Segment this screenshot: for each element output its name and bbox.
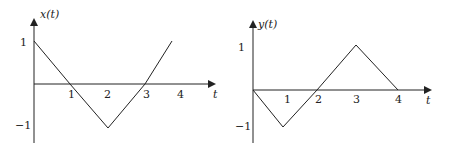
x-tick-3: 3	[143, 88, 150, 101]
x-tick-2: 2	[315, 93, 322, 106]
y-axis-label: x(t)	[40, 8, 59, 21]
x-tick-1: 1	[68, 88, 75, 101]
chart-x-of-t: x(t) t 1 2 3 4 1 −1	[15, 8, 218, 143]
x-axis-label: t	[426, 94, 431, 107]
y-tick-1: 1	[238, 41, 245, 54]
charts-canvas: x(t) t 1 2 3 4 1 −1 y(t) t 1 2 3 4 1 −1	[0, 0, 451, 151]
x-tick-4: 4	[177, 88, 184, 101]
x-tick-2: 2	[104, 88, 111, 101]
y-tick-1: 1	[20, 36, 27, 49]
y-tick-neg1: −1	[235, 120, 251, 133]
x-tick-3: 3	[353, 93, 360, 106]
chart-y-of-t: y(t) t 1 2 3 4 1 −1	[235, 18, 431, 143]
y-tick-neg1: −1	[15, 119, 31, 132]
x-tick-1: 1	[284, 93, 291, 106]
x-tick-4: 4	[395, 93, 402, 106]
signal-line	[253, 45, 398, 127]
y-axis-label: y(t)	[257, 18, 277, 31]
x-axis-label: t	[213, 88, 218, 101]
